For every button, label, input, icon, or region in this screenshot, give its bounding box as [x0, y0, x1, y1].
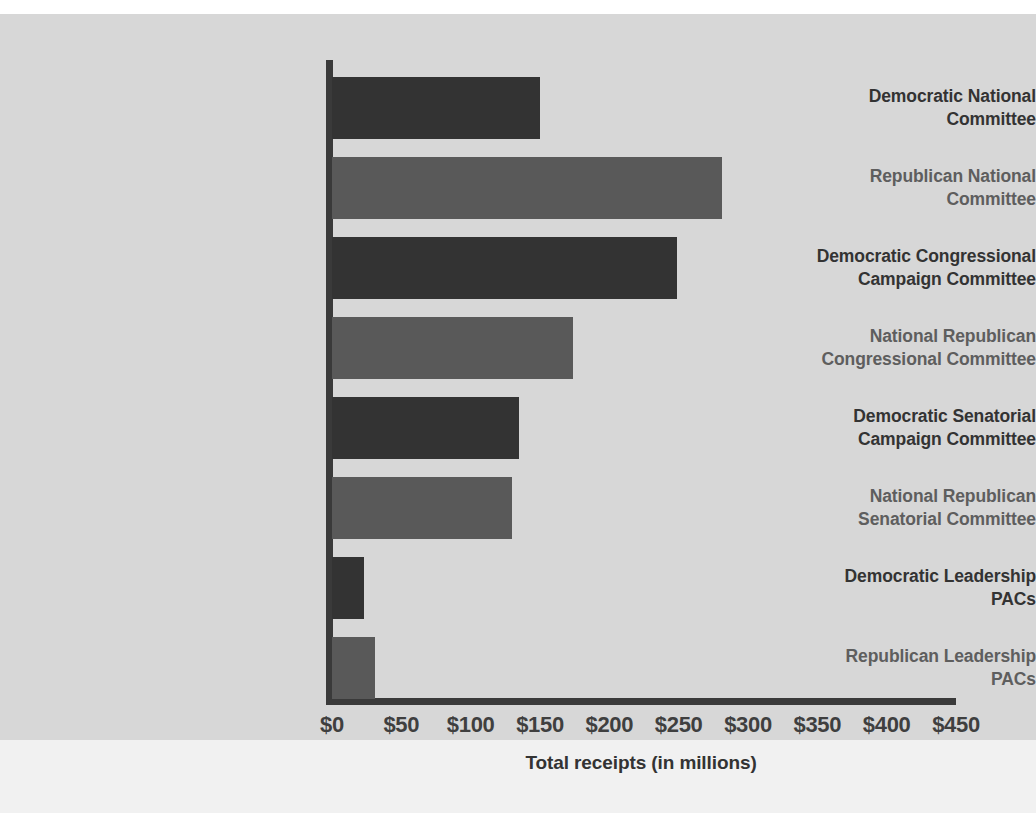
bar-7	[332, 557, 364, 619]
bar-2	[332, 157, 722, 219]
category-label-line: National Republican	[746, 485, 1036, 508]
category-label-5: Democratic SenatorialCampaign Committee	[746, 405, 1036, 451]
x-tick-label-9: $450	[911, 712, 1001, 738]
x-axis-line	[326, 698, 956, 705]
category-label-8: Republican LeadershipPACs	[746, 645, 1036, 691]
category-label-line: Republican National	[746, 165, 1036, 188]
category-label-line: National Republican	[746, 325, 1036, 348]
category-label-7: Democratic LeadershipPACs	[746, 565, 1036, 611]
category-label-2: Republican NationalCommittee	[746, 165, 1036, 211]
category-label-line: Senatorial Committee	[746, 508, 1036, 531]
category-label-1: Democratic NationalCommittee	[746, 85, 1036, 131]
plot-area: Democratic NationalCommitteeRepublican N…	[0, 0, 1036, 813]
bar-4	[332, 317, 573, 379]
bar-5	[332, 397, 519, 459]
category-label-line: Campaign Committee	[746, 428, 1036, 451]
category-label-line: Republican Leadership	[746, 645, 1036, 668]
chart-figure: Democratic NationalCommitteeRepublican N…	[0, 0, 1036, 813]
category-label-line: Democratic Senatorial	[746, 405, 1036, 428]
category-label-line: Committee	[746, 188, 1036, 211]
category-label-6: National RepublicanSenatorial Committee	[746, 485, 1036, 531]
x-axis-title: Total receipts (in millions)	[326, 752, 956, 774]
category-label-line: Democratic Leadership	[746, 565, 1036, 588]
category-label-line: Congressional Committee	[746, 348, 1036, 371]
bar-3	[332, 237, 677, 299]
category-label-line: Democratic National	[746, 85, 1036, 108]
bar-1	[332, 77, 540, 139]
bar-6	[332, 477, 512, 539]
category-label-line: Committee	[746, 108, 1036, 131]
category-label-line: PACs	[746, 668, 1036, 691]
category-label-line: Campaign Committee	[746, 268, 1036, 291]
category-label-line: PACs	[746, 588, 1036, 611]
category-label-3: Democratic CongressionalCampaign Committ…	[746, 245, 1036, 291]
bar-8	[332, 637, 375, 699]
category-label-line: Democratic Congressional	[746, 245, 1036, 268]
category-label-4: National RepublicanCongressional Committ…	[746, 325, 1036, 371]
